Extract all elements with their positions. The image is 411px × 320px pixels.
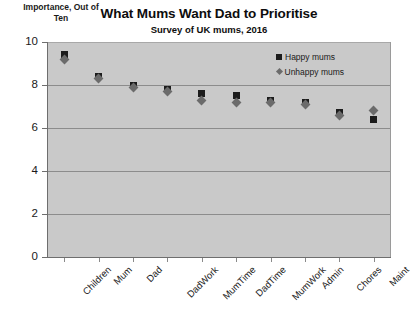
chart-legend: Happy mums Unhappy mums <box>276 50 344 80</box>
x-tick-label-children: Children <box>81 264 114 297</box>
gridline <box>47 171 390 172</box>
gridline <box>47 85 390 86</box>
x-tick-label-dad: Dad <box>144 264 164 284</box>
y-tick-label: 0 <box>8 251 38 262</box>
legend-item-happy-mums: Happy mums <box>276 50 344 63</box>
y-tick-mark <box>42 85 47 86</box>
x-tick-mark <box>64 258 65 262</box>
chart-subtitle: Survey of UK mums, 2016 <box>74 24 344 35</box>
y-tick-label: 10 <box>8 36 38 47</box>
y-tick-label: 8 <box>8 79 38 90</box>
x-tick-mark <box>99 258 100 262</box>
legend-item-unhappy-mums: Unhappy mums <box>276 65 344 78</box>
x-tick-mark <box>271 258 272 262</box>
x-tick-mark <box>305 258 306 262</box>
y-tick-mark <box>42 128 47 129</box>
x-tick-mark <box>339 258 340 262</box>
data-point-unhappy-mums-maint <box>369 106 379 116</box>
y-tick-label: 2 <box>8 208 38 219</box>
plot-top-border <box>47 42 390 43</box>
legend-label-happy-mums: Happy mums <box>285 52 335 62</box>
x-tick-label-dadtime: DadTime <box>253 264 288 299</box>
gridline <box>47 128 390 129</box>
x-tick-mark <box>236 258 237 262</box>
x-tick-mark <box>202 258 203 262</box>
y-axis-line <box>47 42 48 258</box>
legend-label-unhappy-mums: Unhappy mums <box>285 67 345 77</box>
diamond-marker-icon <box>275 68 282 75</box>
x-tick-label-maint: Maint <box>387 264 411 288</box>
y-tick-mark <box>42 42 47 43</box>
y-tick-mark <box>42 214 47 215</box>
y-tick-label: 4 <box>8 165 38 176</box>
x-tick-mark <box>374 258 375 262</box>
x-tick-mark <box>133 258 134 262</box>
data-point-happy-mums-maint <box>370 116 377 123</box>
y-tick-mark <box>42 171 47 172</box>
x-tick-label-mumtime: MumTime <box>220 264 257 301</box>
gridline <box>47 214 390 215</box>
x-tick-label-dadwork: DadWork <box>185 264 221 300</box>
x-tick-mark <box>167 258 168 262</box>
x-tick-label-mum: Mum <box>111 264 134 287</box>
chart-title: What Mums Want Dad to Prioritise <box>74 6 344 21</box>
y-tick-label: 6 <box>8 122 38 133</box>
x-tick-label-chores: Chores <box>354 264 383 293</box>
square-marker-icon <box>276 54 282 60</box>
